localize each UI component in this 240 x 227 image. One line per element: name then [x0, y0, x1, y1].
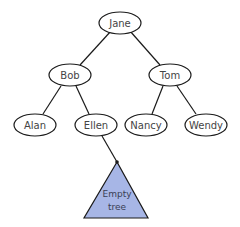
subtree-label-line2: tree [108, 202, 127, 212]
subtree-label-line1: Empty [102, 189, 132, 199]
edge-tom-wendy [177, 86, 196, 114]
tree-diagram: Empty tree Jane Bob Tom Alan Ellen Nancy [0, 0, 240, 227]
node-label: Alan [24, 120, 46, 131]
edge-bob-ellen [76, 86, 89, 114]
node-label: Nancy [130, 120, 161, 131]
subtree-anchor-dot [115, 160, 119, 164]
edge-bob-alan [43, 86, 61, 114]
edge-jane-bob [80, 31, 111, 65]
empty-subtree: Empty tree [84, 160, 148, 218]
edge-jane-tom [130, 31, 160, 65]
node-label: Tom [159, 70, 180, 81]
node-tom: Tom [149, 64, 191, 86]
node-wendy: Wendy [185, 114, 227, 136]
edge-tom-nancy [152, 86, 163, 114]
node-label: Jane [108, 18, 131, 29]
node-jane: Jane [99, 12, 141, 34]
node-label: Ellen [84, 120, 108, 131]
node-ellen: Ellen [75, 114, 117, 136]
node-alan: Alan [14, 114, 56, 136]
node-nancy: Nancy [125, 114, 167, 136]
node-label: Wendy [189, 120, 223, 131]
node-bob: Bob [49, 64, 91, 86]
edge-ellen-subtree [102, 136, 117, 162]
edges [43, 31, 196, 162]
node-label: Bob [60, 70, 79, 81]
